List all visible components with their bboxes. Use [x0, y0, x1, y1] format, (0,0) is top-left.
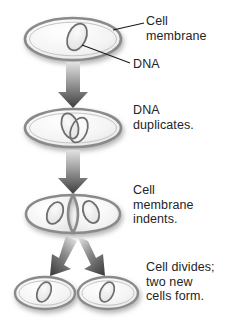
stage-3-indenting-cell: [26, 195, 120, 233]
label-cell-membrane: Cell membrane: [146, 14, 207, 43]
arrow-stage3-to-daughter-left: [50, 236, 77, 276]
label-cell-divides: Cell divides; two new cells form.: [146, 260, 215, 304]
arrow-stage3-to-daughter-right: [77, 236, 105, 276]
stage-4-daughter-cells: [15, 277, 138, 309]
label-membrane-indents: Cell membrane indents.: [133, 183, 194, 227]
leader-cell-membrane-line: [113, 23, 144, 30]
arrow-stage1-to-stage2: [58, 62, 88, 108]
cell-division-diagram: Cell membrane DNA DNA duplicates. Cell m…: [0, 0, 227, 325]
label-dna: DNA: [133, 57, 160, 72]
stage-2-dna-duplicated-cell: [25, 109, 121, 147]
label-dna-duplicates: DNA duplicates.: [133, 103, 194, 132]
arrow-stage2-to-stage3: [58, 150, 88, 194]
